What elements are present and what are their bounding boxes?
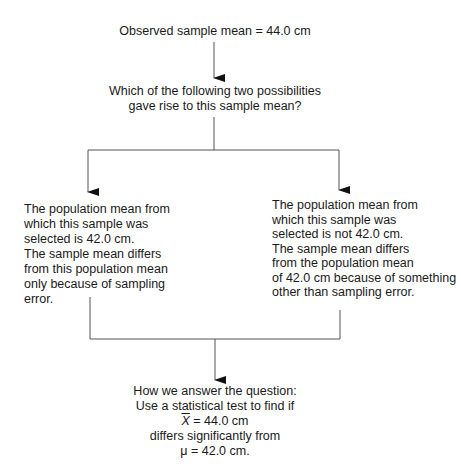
right-option-box: The population mean from which this samp… — [272, 198, 456, 300]
right-option-line: which this sample was — [272, 213, 456, 228]
left-option-box: The population mean from which this samp… — [24, 202, 170, 307]
left-option-line: which this sample was — [24, 217, 170, 232]
answer-line: How we answer the question: — [115, 384, 315, 399]
right-option-line: The sample mean differs — [272, 242, 456, 257]
question-line: gave rise to this sample mean? — [0, 99, 430, 114]
question-box: Which of the following two possibilities… — [0, 84, 430, 114]
answer-line-xbar: X = 44.0 cm — [115, 414, 315, 429]
answer-line: Use a statistical test to find if — [115, 399, 315, 414]
left-option-line: from this population mean — [24, 262, 170, 277]
left-option-line: The population mean from — [24, 202, 170, 217]
xbar-symbol: X — [181, 414, 189, 428]
left-option-line: selected is 42.0 cm. — [24, 232, 170, 247]
right-option-line: The population mean from — [272, 198, 456, 213]
right-option-line: other than sampling error. — [272, 285, 456, 300]
left-option-line: only because of sampling — [24, 277, 170, 292]
answer-line: μ = 42.0 cm. — [115, 444, 315, 459]
xbar-value: = 44.0 cm — [190, 414, 249, 428]
observed-text: Observed sample mean = 44.0 cm — [119, 24, 310, 38]
answer-line: differs significantly from — [115, 429, 315, 444]
question-line: Which of the following two possibilities — [0, 84, 430, 99]
right-option-line: selected is not 42.0 cm. — [272, 227, 456, 242]
observed-sample-mean: Observed sample mean = 44.0 cm — [0, 24, 430, 39]
answer-box: How we answer the question: Use a statis… — [115, 384, 315, 459]
right-option-line: of 42.0 cm because of something — [272, 271, 456, 286]
left-option-line: The sample mean differs — [24, 247, 170, 262]
right-option-line: from the population mean — [272, 256, 456, 271]
left-option-line: error. — [24, 292, 170, 307]
